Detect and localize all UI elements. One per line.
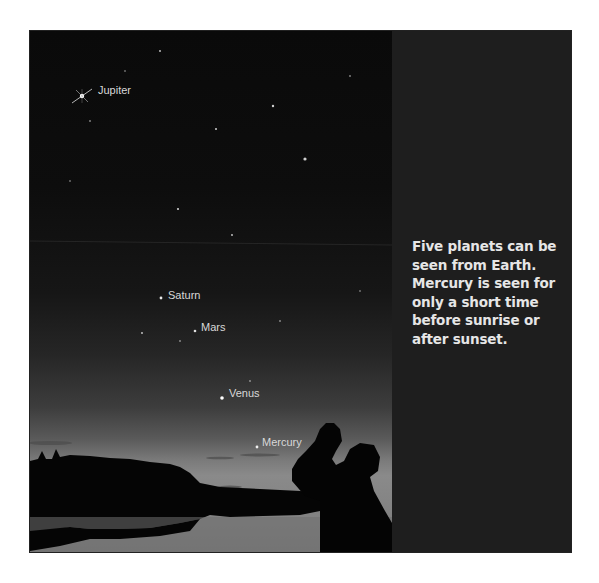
night-sky-photo: Jupiter Saturn Mars Venus Mercury [30, 31, 392, 553]
figure-frame: Jupiter Saturn Mars Venus Mercury Five p… [29, 30, 572, 553]
star [69, 180, 70, 181]
star [249, 380, 251, 382]
planet-label-mars: Mars [201, 321, 225, 333]
mercury-point [256, 446, 259, 449]
jupiter-star [72, 89, 92, 103]
caption-text: Five planets can be seen from Earth. Mer… [412, 237, 572, 348]
star [231, 234, 233, 236]
scan-line [30, 241, 392, 245]
saturn-point [160, 297, 163, 300]
planet-label-venus: Venus [229, 387, 260, 399]
star [179, 340, 181, 342]
planet-label-jupiter: Jupiter [98, 84, 131, 96]
star [215, 128, 217, 130]
star [359, 290, 360, 291]
planet-label-mercury: Mercury [262, 436, 302, 448]
star [124, 70, 125, 71]
star [272, 105, 274, 107]
star [303, 157, 306, 160]
venus-point [220, 396, 224, 400]
star [141, 332, 143, 334]
star [279, 320, 281, 322]
star [349, 75, 351, 77]
sky-scene [30, 31, 392, 553]
caption-panel: Five planets can be seen from Earth. Mer… [392, 31, 572, 553]
star [89, 120, 91, 122]
planet-label-saturn: Saturn [168, 289, 200, 301]
star [177, 208, 179, 210]
mars-point [194, 330, 197, 333]
star [159, 50, 161, 52]
